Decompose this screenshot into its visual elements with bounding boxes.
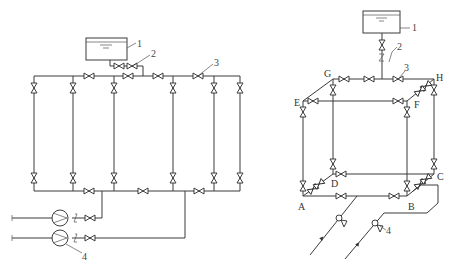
callout-3-left: 3 [214, 57, 219, 68]
node-c-label: C [437, 171, 444, 182]
callout-2-left: 2 [151, 48, 156, 59]
pump-icon [52, 210, 68, 226]
node-a-label: A [298, 201, 306, 212]
piping-diagrams: 1 2 3 4 [0, 0, 456, 269]
node-g-label: G [324, 68, 331, 79]
node-e-label: E [294, 97, 300, 108]
callout-4-left: 4 [82, 251, 87, 262]
node-b-label: B [408, 201, 415, 212]
pump-4-icon [52, 230, 68, 246]
callout-1-right: 1 [412, 22, 417, 33]
left-diagram: 1 2 3 4 [12, 38, 243, 262]
node-f-label: F [414, 99, 420, 110]
right-diagram: G H E F D C A B 1 2 3 4 [294, 11, 444, 259]
tank-1-right [363, 11, 400, 33]
node-h-label: H [436, 72, 443, 83]
valve-3-right-icon [393, 76, 403, 82]
valve-icon [114, 63, 124, 69]
callout-2-right: 2 [397, 41, 402, 52]
callout-4-right: 4 [386, 225, 391, 236]
tank-1-left [86, 38, 127, 60]
valve-2-icon [127, 63, 137, 69]
callout-1-left: 1 [137, 38, 142, 49]
callout-3-right: 3 [404, 62, 409, 73]
node-d-label: D [331, 178, 338, 189]
